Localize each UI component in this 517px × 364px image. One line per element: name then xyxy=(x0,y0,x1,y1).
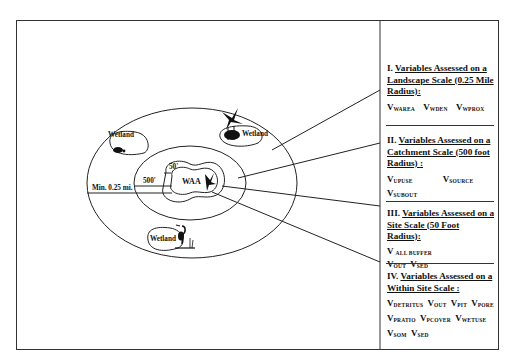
variable: VSOURCE xyxy=(443,173,474,187)
leader-line-site xyxy=(222,186,380,206)
section-heading: Variables Assessed on a Landscape Scale … xyxy=(387,63,494,96)
variable: VWPROX xyxy=(456,101,485,115)
leader-line-catchment xyxy=(238,143,380,178)
variable: VDETRITUS xyxy=(387,297,423,312)
variable: VSED xyxy=(411,327,429,342)
variable-list: VDETRITUS VOUT VPIT VPORE VPRATIO VPCOVE… xyxy=(387,297,494,342)
wetland-label-2: Wetland xyxy=(242,130,268,138)
section-title: II. Variables Assessed on a Catchment Sc… xyxy=(387,135,494,170)
section-numeral: I. xyxy=(387,63,393,73)
wetland-label-3: Wetland xyxy=(150,235,176,243)
section-title: IV. Variables Assessed on a Within Site … xyxy=(387,271,494,294)
variable: VOUT xyxy=(387,259,406,272)
catchment-radius-label: 500' xyxy=(143,177,156,185)
variable: VSED xyxy=(410,259,428,272)
section-catchment: II. Variables Assessed on a Catchment Sc… xyxy=(381,135,498,201)
variable: VOUT xyxy=(427,297,446,312)
variable-list: VUPUSE VSOURCE VSUBOUT xyxy=(387,173,494,201)
variable: V ALL BUFFER xyxy=(387,246,432,259)
section-title: III. Variables Assessed on a Site Scale … xyxy=(387,208,494,243)
variable: VPORE xyxy=(471,297,494,312)
bird-cattail-icon xyxy=(222,108,243,140)
variable: VWAREA xyxy=(387,101,415,115)
variable-list: VWAREA VWDEN VWPROX xyxy=(387,101,494,115)
variable: VUPUSE xyxy=(387,173,413,187)
section-site: III. Variables Assessed on a Site Scale … xyxy=(381,208,498,272)
waa-plant-icon xyxy=(205,173,216,191)
section-within-site: IV. Variables Assessed on a Within Site … xyxy=(381,271,498,342)
variable: VSOM xyxy=(387,327,407,342)
variable: VWETUSE xyxy=(455,312,486,327)
variable: VWDEN xyxy=(423,101,447,115)
wetland-label-1: Wetland xyxy=(108,131,134,139)
section-divider xyxy=(386,263,494,264)
variable: VPCOVER xyxy=(420,312,451,327)
site-radius-label: 50' xyxy=(169,163,178,171)
section-numeral: III. xyxy=(387,208,400,218)
section-heading: Variables Assessed on a Catchment Scale … xyxy=(387,135,490,168)
variable: VSUBOUT xyxy=(387,187,417,201)
variable-list: V ALL BUFFER VOUT VSED xyxy=(387,246,494,272)
section-divider xyxy=(386,125,494,126)
variable: VPIT xyxy=(451,297,467,312)
landscape-radius-label: Min. 0.25 mi. xyxy=(92,184,133,192)
section-numeral: II. xyxy=(387,135,396,145)
section-heading: Variables Assessed on a Site Scale (50 F… xyxy=(387,208,494,241)
waa-label: WAA xyxy=(182,177,201,186)
variable: VPRATIO xyxy=(387,312,416,327)
section-title: I. Variables Assessed on a Landscape Sca… xyxy=(387,63,494,98)
leader-line-landscape xyxy=(272,90,380,150)
section-divider xyxy=(386,201,494,202)
section-numeral: IV. xyxy=(387,271,398,281)
section-heading: Variables Assessed on a Within Site Scal… xyxy=(387,271,492,293)
section-landscape: I. Variables Assessed on a Landscape Sca… xyxy=(381,63,498,115)
